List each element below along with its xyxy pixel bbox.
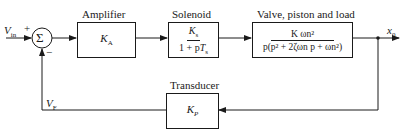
valve-label: Valve, piston and load: [257, 9, 355, 20]
amplifier-gain: KA: [77, 33, 136, 47]
solenoid-transfer-function: Ks 1 + pTs: [168, 23, 219, 58]
amplifier-label: Amplifier: [82, 9, 125, 20]
output-label: x0: [387, 25, 395, 39]
minus-sign: −: [46, 47, 52, 58]
transducer-label: Transducer: [170, 80, 219, 91]
input-label: Vin: [4, 25, 16, 39]
transducer-gain: KP: [166, 104, 219, 118]
valve-transfer-function: K ωn² p(p² + 2ζωn p + ωn²): [252, 23, 353, 58]
solenoid-label: Solenoid: [172, 9, 211, 20]
feedback-path-to-sum: [42, 49, 166, 110]
feedback-signal-label: VF: [46, 98, 57, 112]
takeoff-point: [376, 36, 380, 40]
plus-sign: +: [24, 23, 30, 34]
sigma-symbol: Σ: [36, 31, 44, 44]
